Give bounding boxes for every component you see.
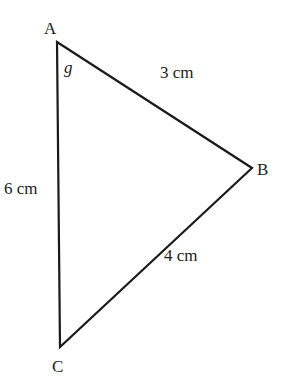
angle-label-g: g	[64, 58, 73, 77]
vertex-label-b: B	[257, 160, 268, 179]
vertex-label-c: C	[52, 357, 63, 376]
triangle-diagram: A B C g 3 cm 4 cm 6 cm	[0, 0, 281, 381]
triangle-svg: A B C g 3 cm 4 cm 6 cm	[0, 0, 281, 381]
side-label-ab: 3 cm	[160, 63, 194, 82]
triangle-abc	[57, 42, 252, 347]
side-label-ac: 6 cm	[4, 179, 38, 198]
vertex-label-a: A	[44, 19, 57, 38]
side-label-bc: 4 cm	[164, 246, 198, 265]
